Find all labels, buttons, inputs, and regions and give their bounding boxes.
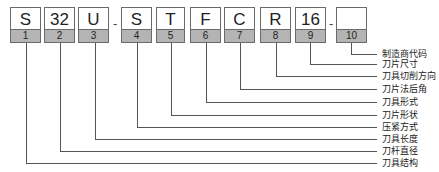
separator-dash: - (329, 16, 333, 31)
code-box-5: T 5 (156, 7, 185, 43)
leader-line (276, 76, 377, 77)
code-box-6: F 6 (190, 7, 221, 43)
code-box-1: S 1 (10, 7, 41, 43)
label-cutting-direction: 刀具切削方向 (382, 71, 436, 81)
position-number: 7 (225, 29, 254, 42)
code-letter (337, 8, 366, 31)
leader-line (351, 43, 352, 54)
position-number: 3 (79, 29, 108, 42)
leader-line (240, 89, 377, 90)
code-box-9: 16 9 (295, 7, 326, 43)
position-number: 9 (296, 29, 325, 42)
code-letter: R (261, 8, 290, 31)
label-manufacturer-code: 制造商代码 (382, 49, 427, 59)
leader-line (95, 43, 96, 139)
leader-line (310, 43, 311, 64)
label-insert-shape: 刀片形状 (382, 110, 418, 120)
position-number: 1 (11, 29, 40, 42)
position-number: 8 (261, 29, 290, 42)
code-letter: 16 (296, 8, 325, 31)
leader-line (171, 115, 377, 116)
position-number: 6 (191, 29, 220, 42)
leader-line (171, 43, 172, 115)
code-letter: F (191, 8, 220, 31)
code-letter: 32 (45, 8, 74, 31)
label-tool-length: 刀具长度 (382, 134, 418, 144)
code-box-7: C 7 (224, 7, 255, 43)
leader-line (351, 54, 377, 55)
position-number: 10 (337, 29, 366, 42)
leader-line (60, 43, 61, 151)
code-letter: U (79, 8, 108, 31)
code-box-4: S 4 (121, 7, 152, 43)
label-tool-structure: 刀具结构 (382, 158, 418, 168)
code-letter: S (122, 8, 151, 31)
leader-line (60, 151, 377, 152)
leader-line (206, 102, 377, 103)
code-letter: C (225, 8, 254, 31)
code-box-10: 10 (336, 7, 367, 43)
label-tool-style: 刀具形式 (382, 97, 418, 107)
leader-line (137, 127, 377, 128)
leader-line (95, 139, 377, 140)
separator-dash: - (113, 16, 117, 31)
leader-line (240, 43, 241, 89)
leader-line (137, 43, 138, 127)
leader-line (26, 163, 377, 164)
leader-line (276, 43, 277, 76)
leader-line (310, 64, 377, 65)
leader-line (26, 43, 27, 163)
code-letter: S (11, 8, 40, 31)
leader-line (206, 43, 207, 102)
position-number: 2 (45, 29, 74, 42)
code-box-8: R 8 (260, 7, 291, 43)
label-shank-diameter: 刀杆直径 (382, 146, 418, 156)
code-box-2: 32 2 (44, 7, 75, 43)
code-box-3: U 3 (78, 7, 109, 43)
position-number: 5 (157, 29, 184, 42)
position-number: 4 (122, 29, 151, 42)
label-insert-size: 刀片尺寸 (382, 59, 418, 69)
code-letter: T (157, 8, 184, 31)
label-insert-clearance-angle: 刀片法后角 (382, 84, 427, 94)
label-clamping-method: 压紧方式 (382, 122, 418, 132)
